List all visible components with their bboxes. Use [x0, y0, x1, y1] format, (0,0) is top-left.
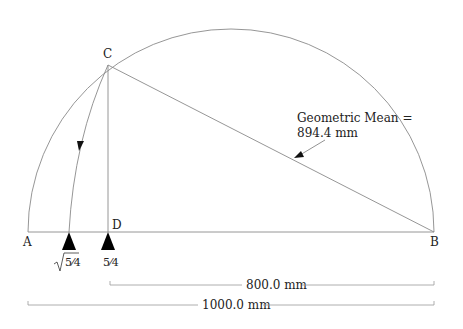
marker-ratio-label: 5⁄4 [103, 256, 119, 269]
point-label-a: A [22, 235, 32, 249]
annotation-line2: 894.4 mm [297, 126, 359, 140]
point-label-d: D [112, 218, 122, 232]
segment-cb [108, 65, 434, 232]
annotation-arrow-icon [294, 151, 304, 158]
point-label-c: C [103, 47, 112, 61]
marker-ratio-triangle-icon [101, 232, 115, 250]
semicircle-arc [28, 29, 434, 232]
annotation-line1: Geometric Mean = [297, 111, 412, 125]
dim-800-label: 800.0 mm [246, 278, 308, 292]
annotation-leader [300, 140, 325, 155]
swing-arc [69, 65, 108, 232]
geometric-mean-diagram: Geometric Mean = 894.4 mm A B C D 5⁄4 5⁄… [0, 0, 463, 329]
marker-sqrt-triangle-icon [62, 232, 76, 250]
dim-1000-label: 1000.0 mm [202, 298, 271, 312]
marker-sqrt-label: 5⁄4 [65, 256, 81, 269]
point-label-b: B [430, 235, 439, 249]
